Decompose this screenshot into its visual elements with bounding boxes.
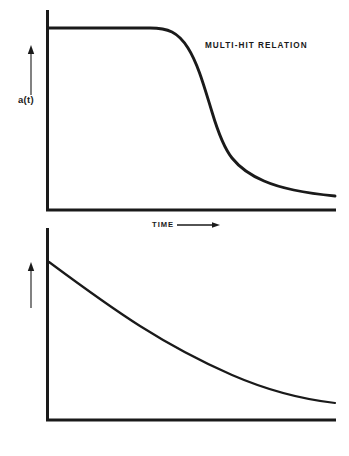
up-arrow-icon	[28, 262, 34, 308]
up-arrow-icon	[28, 45, 34, 95]
chart-panel-multi-hit: a(t) MULTI-HIT RELATION TIME	[0, 0, 349, 240]
chart-panel-single-hit: a(t) SINGLE-HIT RELATION TIME	[0, 228, 349, 456]
multi-hit-annotation: MULTI-HIT RELATION	[205, 41, 308, 50]
y-axis-label-multi-hit: a(t)	[18, 94, 34, 105]
figure-container: a(t) MULTI-HIT RELATION TIME a(t	[0, 0, 349, 456]
multi-hit-plot-svg	[0, 0, 349, 240]
single-hit-plot-svg	[0, 228, 349, 456]
axis-lines	[46, 228, 336, 421]
multi-hit-curve	[48, 28, 335, 196]
single-hit-curve	[49, 262, 335, 403]
